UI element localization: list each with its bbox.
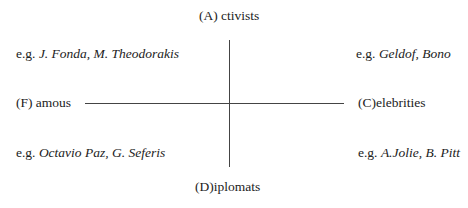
axis-label-bottom: (D)iplomats	[195, 180, 260, 194]
quadrant-top-right-examples: e.g. Geldof, Bono	[356, 47, 451, 61]
example-names: Geldof, Bono	[379, 46, 451, 61]
axis-label-left: (F) amous	[16, 96, 71, 110]
horizontal-axis-line	[85, 103, 344, 104]
axis-label-right: (C)elebrities	[358, 96, 425, 110]
example-prefix: e.g.	[358, 145, 381, 160]
example-prefix: e.g.	[16, 145, 39, 160]
vertical-axis-line	[229, 40, 230, 167]
example-names: Octavio Paz, G. Seferis	[39, 145, 165, 160]
example-prefix: e.g.	[356, 46, 379, 61]
axis-label-top: (A) ctivists	[199, 9, 259, 23]
quadrant-bottom-left-examples: e.g. Octavio Paz, G. Seferis	[16, 146, 165, 160]
example-names: A.Jolie, B. Pitt	[381, 145, 460, 160]
quadrant-bottom-right-examples: e.g. A.Jolie, B. Pitt	[358, 146, 460, 160]
example-names: J. Fonda, M. Theodorakis	[39, 46, 179, 61]
quadrant-top-left-examples: e.g. J. Fonda, M. Theodorakis	[16, 47, 179, 61]
example-prefix: e.g.	[16, 46, 39, 61]
